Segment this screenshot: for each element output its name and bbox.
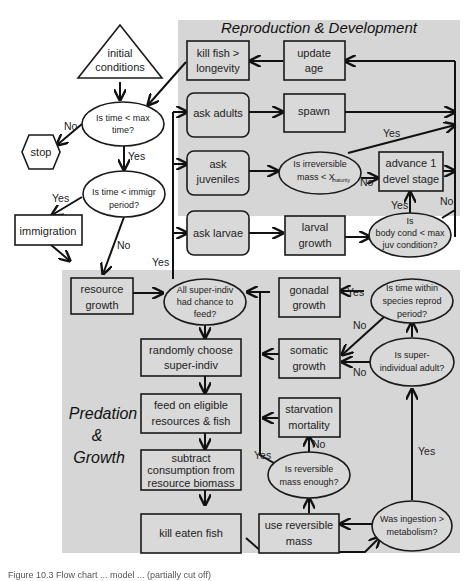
spawn-node: spawn (284, 94, 345, 132)
svg-text:update: update (297, 47, 331, 59)
ask-larvae-node: ask larvae (187, 211, 249, 255)
randomly-choose-node: randomly choose super-indiv (141, 339, 241, 376)
label-no-body: No (440, 195, 454, 207)
svg-text:growth: growth (298, 237, 331, 249)
svg-text:stop: stop (31, 146, 52, 158)
svg-text:randomly choose: randomly choose (149, 344, 233, 356)
immigration-node: immigration (15, 215, 82, 245)
svg-text:subtract: subtract (171, 452, 210, 464)
irreversible-mass-decision: Is irreversible mass < X maturity (279, 152, 361, 194)
svg-text:ask adults: ask adults (193, 107, 243, 119)
all-fed-decision: All super-indiv had chance to feed? (164, 279, 246, 325)
label-no-immigr: No (117, 239, 131, 251)
svg-text:individual adult?: individual adult? (380, 363, 445, 373)
svg-text:mass: mass (286, 535, 313, 547)
label-yes-all-fed: Yes (152, 256, 169, 268)
svg-text:ask larvae: ask larvae (193, 227, 243, 239)
svg-text:period?: period? (109, 200, 139, 210)
svg-text:had chance to: had chance to (177, 297, 234, 307)
svg-text:growth: growth (292, 299, 325, 311)
somatic-growth-node: somatic growth (279, 339, 340, 378)
svg-text:mass enough?: mass enough? (279, 477, 338, 487)
kill-fish-longevity-node: kill fish > longevity (187, 41, 249, 80)
region-title-predation-1: Predation (69, 405, 138, 422)
label-no-reversible: No (312, 438, 326, 450)
feed-on-node: feed on eligible resources & fish (141, 394, 241, 433)
within-reprod-decision: Is time within species reprod period? (371, 279, 453, 323)
svg-text:advance 1: advance 1 (386, 157, 437, 169)
svg-text:resources & fish: resources & fish (152, 415, 231, 427)
svg-text:initial: initial (107, 47, 132, 59)
svg-text:Is time < immigr: Is time < immigr (92, 187, 156, 197)
svg-text:super-indiv: super-indiv (164, 359, 218, 371)
svg-text:species reprod: species reprod (382, 296, 441, 306)
region-title-reproduction: Reproduction & Development (221, 19, 418, 36)
svg-text:Is super-: Is super- (394, 350, 429, 360)
label-yes-time: Yes (128, 150, 145, 162)
svg-text:metabolism?: metabolism? (386, 527, 437, 537)
svg-text:juveniles: juveniles (196, 173, 240, 185)
svg-text:growth: growth (85, 299, 118, 311)
svg-text:mass < X: mass < X (297, 172, 335, 182)
label-yes-reversible: Yes (254, 449, 271, 461)
ask-adults-node: ask adults (187, 93, 249, 137)
label-yes-reprod: Yes (347, 286, 364, 298)
ingestion-decision: Was ingestion > metabolism? (372, 501, 452, 551)
label-yes-ingestion: Yes (418, 445, 435, 457)
svg-text:time?: time? (112, 125, 134, 135)
svg-text:gonadal: gonadal (289, 284, 328, 296)
svg-text:kill eaten fish: kill eaten fish (159, 527, 223, 539)
ask-juveniles-node: ask juveniles (187, 151, 249, 195)
svg-text:Is reversible: Is reversible (285, 464, 334, 474)
svg-text:conditions: conditions (95, 61, 145, 73)
svg-text:Is time within: Is time within (386, 283, 438, 293)
region-title-predation-3: Growth (73, 449, 125, 466)
label-no-irrev: No (360, 176, 374, 188)
svg-text:feed on eligible: feed on eligible (154, 399, 228, 411)
svg-text:Is: Is (406, 216, 414, 226)
time-lt-max-decision: Is time < max time? (82, 102, 164, 146)
label-yes-immigr: Yes (52, 192, 69, 204)
kill-eaten-fish-node: kill eaten fish (141, 514, 241, 553)
time-lt-immigr-decision: Is time < immigr period? (83, 171, 165, 217)
svg-text:period?: period? (397, 309, 427, 319)
svg-text:All super-indiv: All super-indiv (177, 285, 234, 295)
svg-text:growth: growth (292, 360, 325, 372)
svg-text:mortality: mortality (288, 419, 330, 431)
initial-conditions-node: initial conditions (78, 25, 162, 78)
svg-text:somatic: somatic (290, 344, 328, 356)
stop-node: stop (22, 135, 60, 169)
body-cond-decision: Is body cond < max juv condition? (369, 213, 451, 257)
svg-text:immigration: immigration (20, 225, 77, 237)
svg-text:larval: larval (302, 221, 328, 233)
svg-text:Is time < max: Is time < max (96, 113, 150, 123)
update-age-node: update age (284, 41, 345, 80)
svg-text:devel stage: devel stage (383, 173, 439, 185)
subtract-consumption-node: subtract consumption from resource bioma… (141, 450, 241, 490)
svg-text:consumption from: consumption from (147, 464, 234, 476)
svg-text:body cond < max: body cond < max (376, 228, 445, 238)
svg-text:ask: ask (209, 158, 227, 170)
svg-text:kill fish >: kill fish > (197, 47, 240, 59)
svg-text:maturity: maturity (332, 177, 350, 183)
svg-text:resource biomass: resource biomass (148, 477, 235, 489)
svg-text:use reversible: use reversible (265, 519, 333, 531)
svg-text:age: age (305, 62, 323, 74)
starvation-mortality-node: starvation mortality (279, 398, 340, 437)
label-no-reprod: No (353, 319, 367, 331)
svg-text:starvation: starvation (285, 403, 333, 415)
super-adult-decision: Is super- individual adult? (370, 338, 454, 386)
svg-text:spawn: spawn (298, 105, 330, 117)
label-no-adult: No (353, 366, 367, 378)
use-reversible-mass-node: use reversible mass (259, 514, 339, 553)
svg-text:resource: resource (81, 283, 124, 295)
label-yes-spawn: Yes (383, 127, 400, 139)
resource-growth-node: resource growth (71, 278, 133, 314)
advance-stage-node: advance 1 devel stage (379, 152, 443, 191)
larval-growth-node: larval growth (285, 216, 345, 255)
svg-text:longevity: longevity (196, 62, 240, 74)
svg-text:Was ingestion >: Was ingestion > (380, 514, 444, 524)
reversible-enough-decision: Is reversible mass enough? (268, 452, 350, 498)
svg-text:feed?: feed? (194, 309, 217, 319)
flowchart: Reproduction & Development Predation & G… (0, 0, 467, 581)
